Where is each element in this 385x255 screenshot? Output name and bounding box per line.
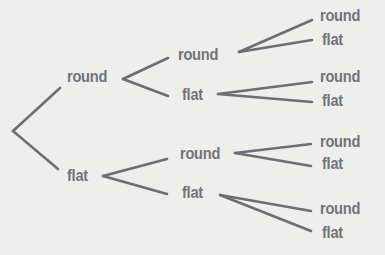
edge-rf-flat bbox=[218, 94, 312, 102]
edge-round-round bbox=[123, 58, 168, 79]
edge-fr-round bbox=[235, 144, 311, 153]
node-l3-ff-flat: flat bbox=[322, 224, 343, 241]
edge-round-flat bbox=[123, 79, 168, 96]
edge-ff-flat bbox=[220, 195, 311, 231]
edge-root-flat bbox=[13, 131, 58, 169]
edge-root-round bbox=[13, 88, 60, 131]
node-l3-fr-flat: flat bbox=[322, 155, 343, 172]
node-l1-flat: flat bbox=[67, 167, 88, 184]
node-l2-round-flat: flat bbox=[182, 86, 203, 103]
node-l2-flat-flat: flat bbox=[182, 184, 203, 201]
node-l3-rf-flat: flat bbox=[322, 92, 343, 109]
node-l3-rf-round: round bbox=[320, 68, 360, 85]
node-l1-round: round bbox=[67, 68, 107, 85]
edge-rf-round bbox=[218, 82, 312, 94]
node-l2-round-round: round bbox=[178, 46, 218, 63]
edge-ff-round bbox=[220, 195, 311, 211]
node-l3-fr-round: round bbox=[320, 133, 360, 150]
node-l2-flat-round: round bbox=[180, 145, 220, 162]
edge-flat-flat bbox=[103, 176, 167, 194]
edge-fr-flat bbox=[235, 153, 311, 166]
node-l3-ff-round: round bbox=[320, 200, 360, 217]
edge-flat-round bbox=[103, 159, 167, 176]
node-l3-rr-round: round bbox=[320, 7, 360, 24]
node-l3-rr-flat: flat bbox=[322, 31, 343, 48]
